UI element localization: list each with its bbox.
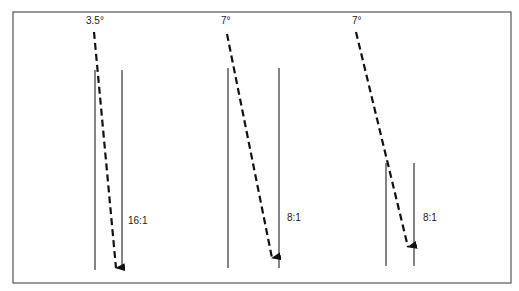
ratio-label: 8:1	[423, 212, 437, 223]
beam-arrow-icon	[356, 32, 408, 247]
panel-1: 3.5°16:1	[86, 15, 148, 270]
panel-2: 7°8:1	[221, 15, 301, 268]
beam-arrow-icon	[94, 32, 116, 268]
panel-3: 7°8:1	[352, 15, 437, 266]
ratio-label: 8:1	[287, 212, 301, 223]
grid-ratio-diagram: 3.5°16:17°8:17°8:1	[0, 0, 519, 291]
beam-arrow-icon	[227, 34, 272, 258]
ratio-label: 16:1	[128, 215, 148, 226]
angle-label: 3.5°	[86, 15, 104, 26]
angle-label: 7°	[221, 15, 231, 26]
figure-frame	[13, 12, 511, 283]
angle-label: 7°	[352, 15, 362, 26]
